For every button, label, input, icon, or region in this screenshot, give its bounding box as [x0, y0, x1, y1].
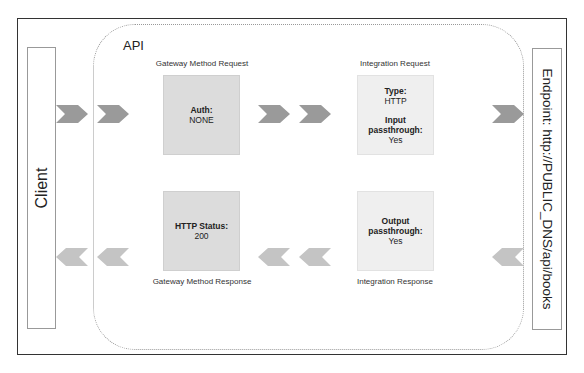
chevron-left-icon [258, 248, 290, 266]
endpoint-label: Endpoint: http://PUBLIC_DNS/api/books [540, 69, 555, 310]
type-key: Type: [384, 86, 406, 96]
input-passthrough-value: Yes [389, 135, 403, 145]
chevron-left-icon [492, 248, 524, 266]
output-passthrough-key: Output passthrough: [358, 216, 433, 236]
type-value: HTTP [384, 96, 406, 106]
api-boundary [93, 24, 524, 350]
chevron-left-icon [56, 248, 88, 266]
http-status-value: 200 [194, 231, 208, 241]
method-response-caption: Gateway Method Response [152, 277, 252, 286]
endpoint-box: Endpoint: http://PUBLIC_DNS/api/books [532, 48, 562, 330]
http-status-key: HTTP Status: [175, 221, 228, 231]
chevron-right-icon [492, 105, 524, 123]
api-label: API [123, 38, 144, 53]
auth-value: NONE [189, 115, 214, 125]
chevron-right-icon [97, 105, 129, 123]
auth-key: Auth: [190, 105, 212, 115]
method-request-box: Auth: NONE [163, 75, 240, 155]
chevron-right-icon [258, 105, 290, 123]
integration-response-caption: Integration Response [345, 277, 445, 286]
chevron-left-icon [97, 248, 129, 266]
client-box: Client [27, 47, 56, 329]
input-passthrough-key: Input passthrough: [358, 115, 433, 135]
chevron-right-icon [299, 105, 331, 123]
integration-request-caption: Integration Request [345, 59, 445, 68]
chevron-left-icon [299, 248, 331, 266]
chevron-right-icon [56, 105, 88, 123]
integration-request-box: Type: HTTP Input passthrough: Yes [357, 75, 434, 155]
method-response-box: HTTP Status: 200 [163, 191, 240, 271]
method-request-caption: Gateway Method Request [152, 59, 252, 68]
integration-response-box: Output passthrough: Yes [357, 191, 434, 271]
client-label: Client [33, 168, 51, 209]
output-passthrough-value: Yes [389, 236, 403, 246]
